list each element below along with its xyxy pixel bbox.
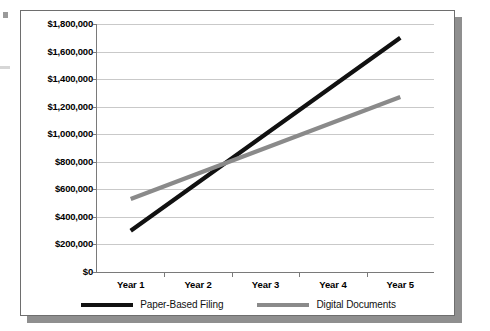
page-edge-fragments [0, 0, 20, 331]
x-axis-tick-label: Year 3 [236, 279, 296, 290]
chart-legend: Paper-Based FilingDigital Documents [21, 299, 456, 310]
x-axis-tick-label: Year 5 [370, 279, 430, 290]
x-axis-tick-mark [232, 272, 233, 277]
y-axis-tick-label: $600,000 [21, 184, 93, 194]
legend-swatch [257, 303, 309, 307]
x-axis-tick-mark [299, 272, 300, 277]
x-axis-tick-mark [164, 272, 165, 277]
y-axis-tick-label: $1,000,000 [21, 129, 93, 139]
x-axis-tick-label: Year 4 [303, 279, 363, 290]
x-axis-tick-label: Year 2 [168, 279, 228, 290]
x-axis-tick-label: Year 1 [101, 279, 161, 290]
page-edge-fragment [3, 12, 8, 18]
y-axis-tick-label: $400,000 [21, 212, 93, 222]
chart-card: $1,800,000$1,600,000$1,400,000$1,200,000… [20, 10, 455, 316]
x-axis-tick-mark [367, 272, 368, 277]
gridline [97, 272, 434, 273]
series-line [131, 38, 401, 231]
y-axis-tick-label: $1,400,000 [21, 74, 93, 84]
y-axis-tick-label: $1,800,000 [21, 19, 93, 29]
legend-label: Digital Documents [316, 299, 395, 310]
legend-item: Digital Documents [257, 299, 395, 310]
page-edge-fragment [0, 66, 10, 69]
y-axis-tick-label: $200,000 [21, 239, 93, 249]
legend-label: Paper-Based Filing [140, 299, 223, 310]
y-axis-tick-label: $1,600,000 [21, 47, 93, 57]
plot-area [97, 24, 434, 272]
y-axis-tick-label: $0 [21, 267, 93, 277]
legend-item: Paper-Based Filing [81, 299, 223, 310]
legend-swatch [81, 303, 133, 307]
series-line [131, 97, 401, 199]
series-lines [97, 24, 434, 272]
y-axis-tick-label: $800,000 [21, 157, 93, 167]
y-axis-tick-label: $1,200,000 [21, 102, 93, 112]
